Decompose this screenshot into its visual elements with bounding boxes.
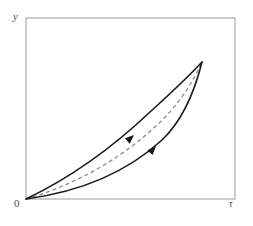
series-upper-curve	[26, 62, 202, 199]
series-lower-curve	[26, 62, 202, 199]
plot-svg	[0, 0, 253, 226]
plot-frame	[26, 18, 235, 199]
arrowhead-upper-curve-icon	[125, 132, 137, 143]
series-mean-path	[26, 62, 202, 199]
x-axis-label: τ	[229, 199, 233, 209]
figure-container: y 0 τ	[0, 0, 253, 226]
y-axis-label: y	[13, 11, 18, 22]
origin-label: 0	[14, 198, 20, 209]
